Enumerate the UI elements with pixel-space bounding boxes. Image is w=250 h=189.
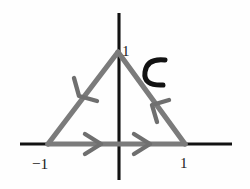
curve-label-C-glyph xyxy=(145,60,165,85)
contour-triangle-group xyxy=(48,52,185,144)
axes-group xyxy=(20,13,232,180)
x-axis-positive-one-label: 1 xyxy=(180,156,188,171)
figure-canvas: 1 −1 1 xyxy=(0,0,250,189)
apex-value-label: 1 xyxy=(122,44,130,59)
x-axis-negative-one-label: −1 xyxy=(32,156,48,172)
contour-right-edge xyxy=(118,52,185,144)
